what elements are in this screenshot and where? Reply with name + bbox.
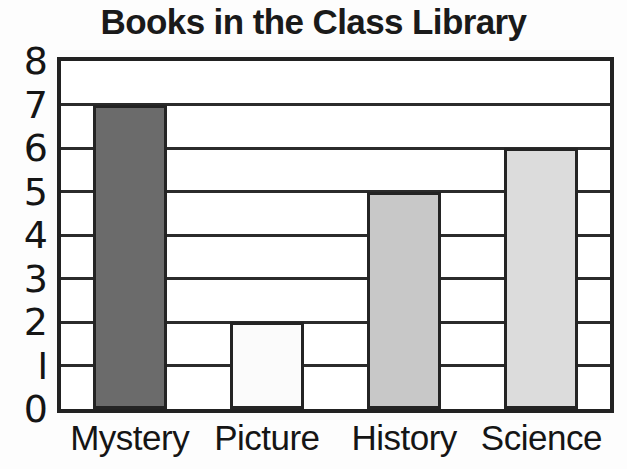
x-axis-label-picture: Picture (198, 418, 335, 458)
chart-page: Books in the Class Library 0I2345678 Mys… (0, 0, 627, 469)
bar-picture (230, 322, 304, 409)
y-axis-tick-label: 0 (0, 390, 48, 428)
y-axis-tick-label: 8 (0, 42, 48, 80)
y-axis-tick-label: I (0, 347, 48, 385)
x-axis-label-history: History (336, 418, 473, 458)
bar-science (504, 148, 578, 409)
y-axis-tick-label: 5 (0, 173, 48, 211)
bar-history (367, 192, 441, 410)
y-axis-tick-label: 6 (0, 129, 48, 167)
plot-area (57, 57, 614, 413)
y-axis-tick-label: 4 (0, 216, 48, 254)
x-axis-label-science: Science (473, 418, 610, 458)
y-axis-tick-label: 3 (0, 260, 48, 298)
page-title: Books in the Class Library (0, 2, 627, 42)
plot-inner (61, 61, 610, 409)
y-axis-tick-label: 2 (0, 303, 48, 341)
bar-mystery (93, 105, 167, 410)
x-axis-label-mystery: Mystery (61, 418, 198, 458)
y-axis-tick-label: 7 (0, 86, 48, 124)
